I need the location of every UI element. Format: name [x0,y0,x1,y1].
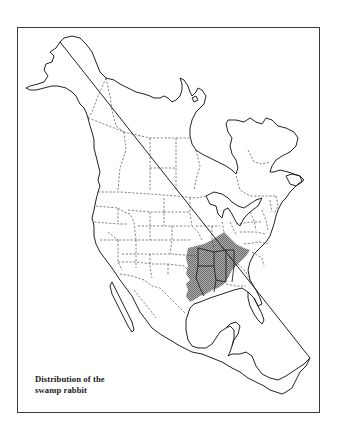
caption-line-1: Distribution of the [35,374,105,385]
map-caption: Distribution of the swamp rabbit [35,374,105,396]
continent-outline [26,36,310,394]
caption-line-2: swamp rabbit [35,385,105,396]
